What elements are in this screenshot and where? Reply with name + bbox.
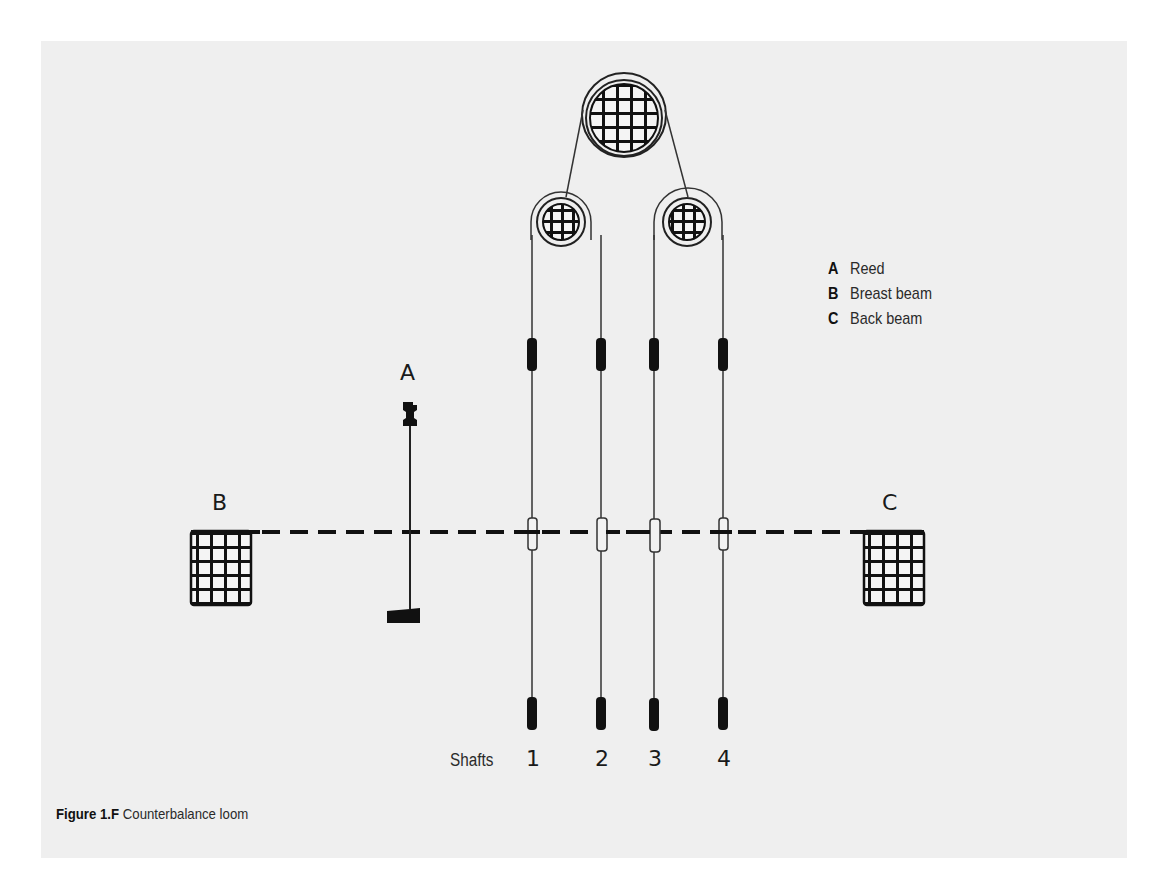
legend-item-back-beam: C Back beam [828, 306, 946, 331]
left-pulley-icon [531, 192, 591, 246]
top-pulley-icon [582, 73, 666, 160]
legend-item-breast-beam: B Breast beam [828, 281, 946, 306]
legend-item-reed: A Reed [828, 256, 946, 281]
legend: A Reed B Breast beam C Back beam [828, 256, 946, 331]
shaft-number-3: 3 [640, 746, 670, 771]
counterbalance-loom-diagram [0, 0, 1165, 893]
heddle-eyes [528, 518, 728, 552]
legend-text: Reed [850, 259, 885, 279]
caption-label: Figure 1.F [56, 805, 119, 822]
caption-text: Counterbalance loom [119, 805, 248, 822]
upper-shaft-bars [527, 338, 728, 371]
legend-key: B [828, 284, 847, 304]
back-beam-label: C [882, 492, 897, 514]
back-beam-icon [856, 531, 924, 605]
reed-label: A [400, 362, 415, 384]
breast-beam-icon [191, 531, 260, 605]
shaft-cords [532, 235, 723, 700]
shaft-number-4: 4 [709, 746, 739, 771]
shaft-number-1: 1 [518, 746, 548, 771]
legend-key: C [828, 309, 847, 329]
breast-beam-label: B [212, 492, 227, 514]
legend-key: A [828, 259, 847, 279]
legend-text: Breast beam [850, 284, 932, 304]
lower-shaft-bars [527, 697, 728, 731]
shafts-label: Shafts [450, 750, 493, 771]
reed-icon [387, 402, 420, 623]
legend-text: Back beam [850, 309, 922, 329]
shaft-number-2: 2 [587, 746, 617, 771]
figure-caption: Figure 1.F Counterbalance loom [56, 805, 248, 822]
